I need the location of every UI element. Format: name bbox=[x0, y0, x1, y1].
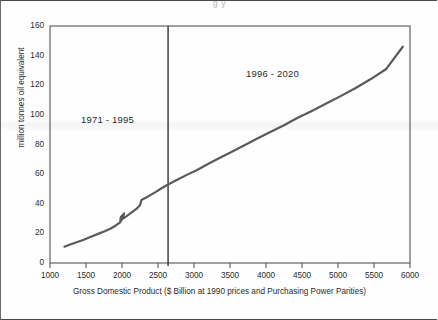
x-tick-label: 1000 bbox=[33, 271, 67, 280]
period-label-1971-1995: 1971 - 1995 bbox=[81, 114, 134, 125]
plot-frame bbox=[50, 26, 410, 263]
x-tick-label: 3500 bbox=[213, 271, 247, 280]
x-tick-label: 5500 bbox=[357, 271, 391, 280]
y-tick-label: 40 bbox=[18, 199, 44, 208]
y-tick-label: 0 bbox=[18, 258, 44, 267]
y-tick-label: 20 bbox=[18, 228, 44, 237]
y-tick-label: 120 bbox=[18, 80, 44, 89]
x-tick-label: 4500 bbox=[285, 271, 319, 280]
y-tick-label: 160 bbox=[18, 21, 44, 30]
x-axis-title: Gross Domestic Product ($ Billion at 199… bbox=[1, 287, 438, 296]
y-tick-label: 60 bbox=[18, 169, 44, 178]
y-tick-label: 100 bbox=[18, 110, 44, 119]
x-tick-label: 6000 bbox=[393, 271, 427, 280]
x-tick-label: 2000 bbox=[105, 271, 139, 280]
x-tick-label: 3000 bbox=[177, 271, 211, 280]
y-tick-label: 80 bbox=[18, 140, 44, 149]
period-label-1996-2020: 1996 - 2020 bbox=[246, 68, 299, 79]
x-tick-label: 2500 bbox=[141, 271, 175, 280]
x-tick-label: 1500 bbox=[69, 271, 103, 280]
x-tick-label: 5000 bbox=[321, 271, 355, 280]
x-tick-label: 4000 bbox=[249, 271, 283, 280]
data-line-0 bbox=[64, 47, 402, 247]
y-tick-label: 140 bbox=[18, 51, 44, 60]
